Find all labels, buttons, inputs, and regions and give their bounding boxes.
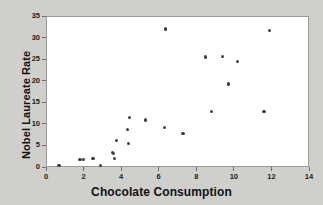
data-point bbox=[262, 110, 265, 113]
y-tick-mark bbox=[42, 37, 46, 38]
x-tick-mark bbox=[83, 167, 84, 171]
data-point bbox=[204, 55, 207, 58]
plot-area bbox=[46, 16, 309, 167]
data-point bbox=[144, 118, 147, 121]
y-tick-mark bbox=[42, 16, 46, 17]
y-tick-mark bbox=[42, 123, 46, 124]
y-axis-title: Nobel Laureate Rate bbox=[20, 51, 32, 159]
x-tick-label: 14 bbox=[299, 173, 319, 181]
x-tick-label: 0 bbox=[36, 173, 56, 181]
x-tick-mark bbox=[196, 167, 197, 171]
y-tick-mark bbox=[42, 102, 46, 103]
data-point bbox=[78, 158, 81, 161]
data-point bbox=[164, 27, 167, 30]
data-point bbox=[91, 157, 94, 160]
y-tick-label: 0 bbox=[18, 163, 40, 171]
data-point bbox=[181, 132, 184, 135]
x-tick-mark bbox=[271, 167, 272, 171]
y-tick-mark bbox=[42, 59, 46, 60]
data-point bbox=[210, 110, 213, 113]
x-tick-mark bbox=[158, 167, 159, 171]
x-tick-mark bbox=[121, 167, 122, 171]
y-tick-label: 30 bbox=[18, 34, 40, 42]
x-tick-mark bbox=[309, 167, 310, 171]
x-tick-label: 8 bbox=[186, 173, 206, 181]
x-tick-mark bbox=[233, 167, 234, 171]
y-tick-mark bbox=[42, 167, 46, 168]
x-axis-title: Chocolate Consumption bbox=[0, 185, 323, 199]
y-tick-mark bbox=[42, 145, 46, 146]
x-tick-label: 2 bbox=[74, 173, 94, 181]
x-tick-label: 12 bbox=[261, 173, 281, 181]
x-tick-label: 4 bbox=[111, 173, 131, 181]
x-tick-label: 6 bbox=[149, 173, 169, 181]
x-tick-mark bbox=[46, 167, 47, 171]
y-tick-label: 35 bbox=[18, 12, 40, 20]
data-point bbox=[115, 139, 118, 142]
data-point bbox=[163, 126, 166, 129]
data-point bbox=[227, 82, 230, 85]
x-tick-label: 10 bbox=[224, 173, 244, 181]
scatter-chart-figure: 02468101214 05101520253035 Chocolate Con… bbox=[0, 0, 323, 205]
y-tick-mark bbox=[42, 80, 46, 81]
